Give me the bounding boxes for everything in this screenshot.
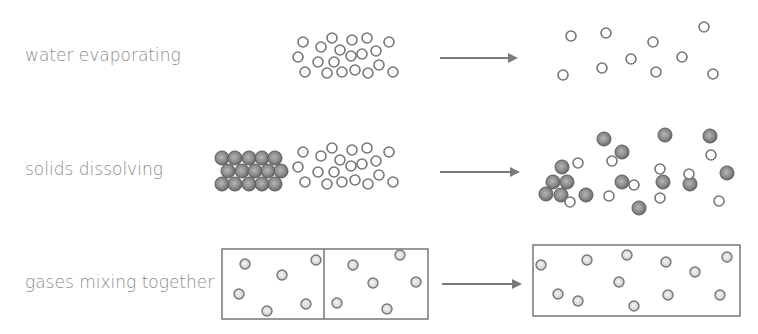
solid-particle-icon	[632, 201, 646, 215]
solid-particle-icon	[656, 175, 670, 189]
gas-particle-icon	[382, 304, 392, 314]
solid-particle-icon	[274, 164, 288, 178]
water-particle-icon	[597, 63, 607, 73]
water-particle-icon	[384, 147, 394, 157]
gas-particle-icon	[301, 299, 311, 309]
water-particle-icon	[346, 51, 356, 61]
solid-particle-icon	[539, 187, 553, 201]
gas-particle-icon	[722, 252, 732, 262]
gas-particle-icon	[582, 255, 592, 265]
water-particle-icon	[714, 196, 724, 206]
water-particle-icon	[558, 70, 568, 80]
water-particle-icon	[337, 177, 347, 187]
water-particle-icon	[322, 179, 332, 189]
row-solids-dissolving	[215, 128, 734, 215]
water-particle-icon	[655, 193, 665, 203]
water-particle-icon	[573, 158, 583, 168]
solid-particle-icon	[560, 175, 574, 189]
water-particle-icon	[363, 179, 373, 189]
water-particle-icon	[699, 22, 709, 32]
water-particle-icon	[313, 57, 323, 67]
solid-particle-icon	[248, 164, 262, 178]
water-particle-icon	[706, 150, 716, 160]
water-particle-icon	[684, 169, 694, 179]
solid-particle-icon	[255, 151, 269, 165]
solid-particle-icon	[221, 164, 235, 178]
water-particle-icon	[648, 37, 658, 47]
particle-diagram	[0, 0, 758, 334]
water-particle-icon	[322, 68, 332, 78]
water-particle-icon	[350, 65, 360, 75]
water-particle-icon	[362, 143, 372, 153]
water-particle-icon	[566, 31, 576, 41]
solid-particle-icon	[555, 160, 569, 174]
water-particle-icon	[316, 42, 326, 52]
solid-particle-icon	[579, 188, 593, 202]
water-particle-icon	[677, 52, 687, 62]
gas-particle-icon	[629, 301, 639, 311]
water-particle-icon	[655, 164, 665, 174]
water-particle-icon	[363, 68, 373, 78]
water-particle-icon	[316, 151, 326, 161]
water-particle-icon	[350, 175, 360, 185]
water-particle-icon	[362, 33, 372, 43]
water-particle-icon	[329, 57, 339, 67]
water-particle-icon	[651, 67, 661, 77]
water-particle-icon	[629, 180, 639, 190]
row-water-evaporating	[293, 22, 718, 80]
water-particle-icon	[374, 170, 384, 180]
water-particle-icon	[346, 161, 356, 171]
solid-particle-icon	[261, 164, 275, 178]
water-particle-icon	[300, 67, 310, 77]
water-particle-icon	[357, 159, 367, 169]
water-particle-icon	[298, 37, 308, 47]
water-particle-icon	[388, 177, 398, 187]
solid-particle-icon	[703, 129, 717, 143]
water-particle-icon	[626, 54, 636, 64]
solid-particle-icon	[615, 175, 629, 189]
water-particle-icon	[327, 33, 337, 43]
gas-particle-icon	[553, 289, 563, 299]
gas-particle-icon	[614, 277, 624, 287]
water-particle-icon	[313, 167, 323, 177]
water-particle-icon	[604, 191, 614, 201]
gas-particle-icon	[332, 298, 342, 308]
gas-particle-icon	[240, 259, 250, 269]
solid-particle-icon	[720, 166, 734, 180]
gas-particle-icon	[536, 260, 546, 270]
solid-particle-icon	[255, 177, 269, 191]
water-particle-icon	[607, 156, 617, 166]
water-particle-icon	[384, 37, 394, 47]
water-particle-icon	[357, 49, 367, 59]
gas-particle-icon	[368, 278, 378, 288]
water-particle-icon	[335, 45, 345, 55]
water-particle-icon	[329, 167, 339, 177]
water-particle-icon	[708, 69, 718, 79]
water-particle-icon	[565, 197, 575, 207]
gas-particle-icon	[690, 267, 700, 277]
gas-particle-icon	[411, 277, 421, 287]
gas-particle-icon	[277, 270, 287, 280]
water-particle-icon	[374, 60, 384, 70]
gas-particle-icon	[311, 255, 321, 265]
solid-particle-icon	[242, 177, 256, 191]
water-particle-icon	[298, 147, 308, 157]
water-particle-icon	[347, 35, 357, 45]
water-particle-icon	[601, 28, 611, 38]
gas-particle-icon	[663, 290, 673, 300]
water-particle-icon	[337, 67, 347, 77]
gas-particle-icon	[573, 296, 583, 306]
gas-particle-icon	[622, 250, 632, 260]
solid-particle-icon	[268, 177, 282, 191]
solid-particle-icon	[242, 151, 256, 165]
water-particle-icon	[388, 67, 398, 77]
water-particle-icon	[371, 46, 381, 56]
water-particle-icon	[300, 177, 310, 187]
water-particle-icon	[347, 145, 357, 155]
gas-particle-icon	[262, 306, 272, 316]
row-gases-mixing	[222, 245, 740, 319]
solid-particle-icon	[658, 128, 672, 142]
solid-particle-icon	[615, 145, 629, 159]
gas-particle-icon	[395, 250, 405, 260]
solid-particle-icon	[235, 164, 249, 178]
